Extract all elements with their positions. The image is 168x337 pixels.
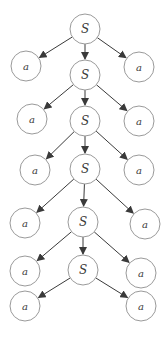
edge-arrow-S1-a2L <box>44 85 73 109</box>
node-label: a <box>29 114 35 125</box>
tree-node-a1R: a <box>124 52 154 82</box>
node-label: S <box>79 215 87 229</box>
edge-arrow-S0-a1L <box>40 37 73 58</box>
node-label: a <box>22 301 28 312</box>
node-label: S <box>81 68 89 82</box>
node-label: a <box>32 165 38 176</box>
parse-tree-diagram: SaSaaSaaSaaSaaSaaa <box>0 0 168 337</box>
node-label: a <box>23 61 29 72</box>
edge-arrow-S4-a5L <box>37 232 71 261</box>
node-label: a <box>136 62 142 73</box>
tree-node-a4R: a <box>130 209 160 239</box>
node-label: a <box>136 116 142 127</box>
tree-node-a2R: a <box>124 106 154 136</box>
tree-node-a2L: a <box>17 104 47 134</box>
tree-node-a5R: a <box>126 258 156 288</box>
node-label: S <box>81 114 89 128</box>
tree-node-S0: S <box>70 14 100 44</box>
edge-arrow-S4-a5R <box>94 232 129 263</box>
edge-arrow-S2-a3L <box>46 131 74 158</box>
node-label: S <box>81 162 89 176</box>
tree-node-S3: S <box>70 154 100 184</box>
node-label: a <box>22 266 28 277</box>
tree-node-S5: S <box>68 255 98 285</box>
node-label: a <box>142 219 148 230</box>
edge-arrow-S3-a4R <box>96 179 133 213</box>
tree-node-a4L: a <box>10 208 40 238</box>
tree-node-S4: S <box>68 207 98 237</box>
edge-arrow-S2-a3R <box>96 131 127 159</box>
tree-node-a3R: a <box>124 155 154 185</box>
tree-node-S2: S <box>70 106 100 136</box>
edge-arrow-S0-a1R <box>97 38 126 58</box>
node-label: a <box>138 301 144 312</box>
tree-node-a1L: a <box>11 51 41 81</box>
tree-node-a6L: a <box>10 291 40 321</box>
edge-arrow-S1-a2R <box>96 85 126 111</box>
node-label: S <box>79 263 87 277</box>
node-label: a <box>138 268 144 279</box>
nodes-layer: SaSaaSaaSaaSaaSaaa <box>10 14 160 321</box>
edge-arrow-S3-a4L <box>37 179 74 212</box>
edge-arrow-S3-S4 <box>84 184 85 206</box>
edge-arrow-S5-a6L <box>39 278 71 298</box>
tree-node-a5L: a <box>10 256 40 286</box>
tree-node-a3L: a <box>20 155 50 185</box>
node-label: a <box>136 165 142 176</box>
tree-node-a6R: a <box>126 291 156 321</box>
node-label: S <box>81 22 89 36</box>
node-label: a <box>22 218 28 229</box>
tree-node-S1: S <box>70 60 100 90</box>
tree-svg: SaSaaSaaSaaSaaSaaa <box>0 0 168 337</box>
edge-arrow-S5-a6R <box>96 278 128 298</box>
